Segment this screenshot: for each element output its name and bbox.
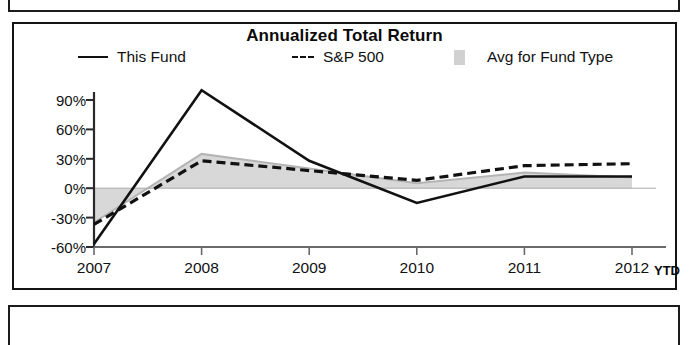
plot-area: 90%60%30%0%-30%-60% 20072008200920102011… — [14, 24, 675, 288]
x-axis-tick-label: 2007 — [77, 259, 111, 277]
x-axis-tick-label: 2012 — [615, 259, 649, 277]
scan-artifact-box-above — [8, 0, 680, 12]
x-axis-tick-labels: 200720082009201020112012YTD — [14, 24, 675, 288]
x-axis-tick-label: 2009 — [292, 259, 326, 277]
annualized-total-return-chart-panel: Annualized Total Return This Fund S&P 50… — [12, 22, 677, 290]
x-axis-tick-label: 2011 — [508, 259, 541, 277]
x-axis-tick-label: 2010 — [400, 259, 434, 277]
x-axis-ytd-label: YTD — [654, 263, 680, 278]
x-axis-tick-label: 2008 — [184, 259, 218, 277]
scan-artifact-box-below — [8, 305, 680, 345]
